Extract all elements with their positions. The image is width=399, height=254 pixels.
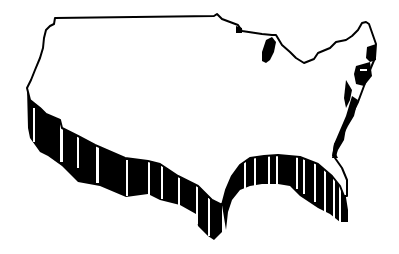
us-map-svg xyxy=(0,0,399,254)
us-map-figure: Continental United States 3D extruded ou… xyxy=(0,0,399,254)
